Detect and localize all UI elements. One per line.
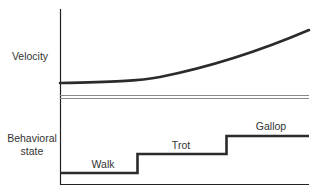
gait-transition-diagram: Velocity Behavioral state Walk Trot Gall… <box>0 0 318 195</box>
velocity-curve <box>60 30 309 83</box>
trot-label: Trot <box>172 139 190 151</box>
behavioral-label-line2: state <box>21 145 44 157</box>
diagram-svg: Velocity Behavioral state Walk Trot Gall… <box>0 0 318 195</box>
behavioral-label-line1: Behavioral <box>7 132 57 144</box>
velocity-label: Velocity <box>12 50 49 62</box>
gallop-label: Gallop <box>256 120 287 132</box>
walk-label: Walk <box>92 158 116 170</box>
